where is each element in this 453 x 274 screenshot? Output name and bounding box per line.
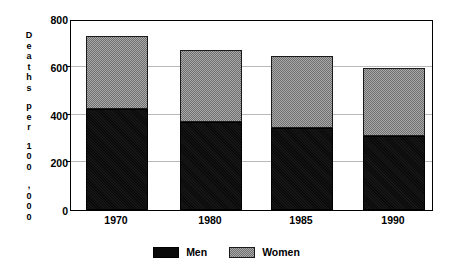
- hatched-gray-swatch: [229, 247, 255, 258]
- legend-item-women[interactable]: Women: [229, 246, 300, 258]
- plot-area: [70, 20, 433, 211]
- y-title-char: e: [26, 112, 31, 123]
- y-axis-tick: [66, 66, 71, 67]
- bar-segment-men-1990[interactable]: [363, 136, 425, 210]
- bar-segment-men-1985[interactable]: [271, 128, 333, 210]
- y-axis-label: 600: [40, 62, 68, 74]
- y-title-char: 0: [26, 191, 31, 202]
- y-title-char: r: [27, 122, 31, 133]
- x-axis-label-1985: 1985: [289, 214, 312, 226]
- y-title-char: t: [28, 62, 31, 73]
- y-axis-tick-labels: 0200400600800: [36, 0, 68, 274]
- bar-1985[interactable]: [271, 56, 333, 210]
- y-title-char: p: [26, 101, 32, 112]
- x-axis-tick-labels: 1970198019851990: [0, 214, 453, 232]
- bar-segment-women-1980[interactable]: [180, 50, 242, 122]
- legend-label: Men: [186, 246, 207, 258]
- bar-1990[interactable]: [363, 68, 425, 210]
- chart-figure: D e a t h s p e r 1 0 0 , 0 0 0 02004006…: [0, 0, 453, 274]
- solid-black-swatch: [153, 247, 179, 258]
- y-axis-tick: [66, 161, 71, 162]
- y-title-char: 0: [26, 151, 31, 162]
- bar-segment-men-1970[interactable]: [86, 109, 148, 210]
- bar-segment-women-1990[interactable]: [363, 68, 425, 136]
- y-title-char: e: [26, 41, 31, 52]
- y-axis-tick: [66, 114, 71, 115]
- legend-label: Women: [262, 246, 300, 258]
- x-axis-label-1980: 1980: [198, 214, 221, 226]
- y-axis-title-line-deaths: D e a t h s: [26, 30, 33, 93]
- y-title-char: ,: [28, 180, 31, 191]
- bar-segment-men-1980[interactable]: [180, 122, 242, 210]
- y-title-char: h: [26, 72, 32, 83]
- y-axis-title-line-per: p e r: [26, 101, 32, 133]
- y-title-char: D: [26, 30, 33, 41]
- chart-legend: MenWomen: [0, 246, 453, 258]
- bar-1980[interactable]: [180, 50, 242, 210]
- bar-1970[interactable]: [86, 36, 148, 210]
- y-title-char: s: [26, 83, 31, 94]
- y-axis-label: 800: [40, 14, 68, 26]
- legend-item-men[interactable]: Men: [153, 246, 207, 258]
- y-title-char: a: [26, 51, 31, 62]
- y-axis-label: 400: [40, 110, 68, 122]
- bar-segment-women-1985[interactable]: [271, 56, 333, 128]
- x-axis-label-1990: 1990: [381, 214, 404, 226]
- y-title-char: 0: [26, 201, 31, 212]
- y-title-char: 1: [26, 141, 31, 152]
- y-title-char: 0: [26, 162, 31, 173]
- y-axis-label: 200: [40, 157, 68, 169]
- x-axis-label-1970: 1970: [104, 214, 127, 226]
- bar-segment-women-1970[interactable]: [86, 36, 148, 109]
- y-axis-title-line-100: 1 0 0: [26, 141, 31, 173]
